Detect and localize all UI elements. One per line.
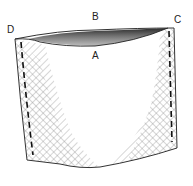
label-b: B: [92, 12, 99, 22]
label-c: C: [174, 15, 181, 25]
label-a: A: [92, 51, 99, 61]
cross-hatching: [15, 28, 177, 168]
pocket-diagram: A B C D: [0, 0, 193, 186]
label-d: D: [7, 25, 14, 35]
pocket-drawing: [0, 0, 193, 186]
